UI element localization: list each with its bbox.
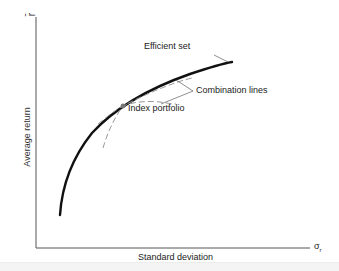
y-axis-symbol: r̄: [26, 13, 37, 16]
index-portfolio-label: Index portfolio: [128, 103, 185, 113]
combination-leader-upper: [176, 80, 193, 91]
y-axis-title: Average return: [22, 97, 32, 177]
combination-lines-label: Combination lines: [196, 85, 268, 95]
bottom-margin: [0, 262, 339, 271]
x-axis-symbol-sub: r: [320, 247, 322, 253]
chart-area: r̄ σr Average return Standard deviation …: [0, 0, 339, 262]
index-portfolio-point: [121, 104, 126, 109]
x-axis-symbol: σr: [314, 241, 322, 253]
x-axis-title: Standard deviation: [138, 252, 213, 262]
combination-line-upper: [98, 78, 192, 124]
efficient-set-leader: [214, 55, 228, 62]
efficient-set-label: Efficient set: [144, 41, 190, 51]
chart-svg: [0, 0, 339, 262]
